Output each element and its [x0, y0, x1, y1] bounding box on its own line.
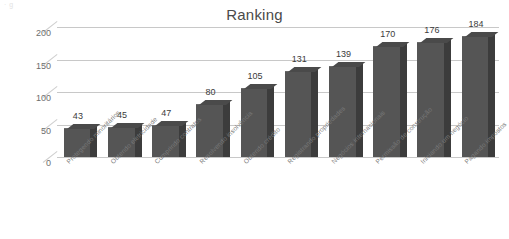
bar-top-face — [244, 84, 277, 89]
bar-value-label: 43 — [73, 111, 83, 121]
y-axis-tick-label: 50 — [41, 126, 51, 136]
bar-value-label: 47 — [161, 108, 171, 118]
bar-value-label: 170 — [380, 29, 395, 39]
y-axis-tick-label: 150 — [36, 61, 51, 71]
bar-value-label: 139 — [336, 49, 351, 59]
bar-value-label: 176 — [424, 25, 439, 35]
y-axis-tick-label: 200 — [36, 28, 51, 38]
plot-area: 050100150200 43454780105131139170176184 — [57, 27, 499, 157]
bar-series: 43454780105131139170176184 — [57, 27, 499, 157]
bar-side-face — [267, 84, 274, 157]
ranking-bar-chart: · g Ranking 050100150200 434547801051311… — [0, 0, 509, 239]
y-axis-tick-label: 0 — [46, 158, 51, 168]
y-axis-tick-label: 100 — [36, 93, 51, 103]
bar-value-label: 80 — [205, 87, 215, 97]
bar-value-label: 131 — [292, 54, 307, 64]
category-axis-labels: Protegendo minoritáriosObtendo eletricid… — [57, 160, 509, 239]
gridline — [57, 157, 499, 158]
chart-title: Ranking — [0, 6, 509, 23]
bar-value-label: 184 — [469, 19, 484, 29]
bar-value-label: 105 — [248, 71, 263, 81]
